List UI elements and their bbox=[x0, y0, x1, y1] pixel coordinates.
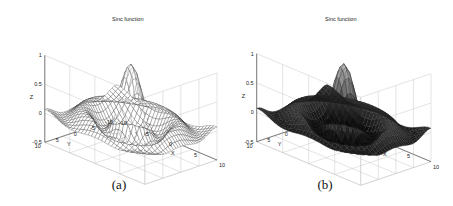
x-tick-label: -10 bbox=[329, 120, 337, 126]
y-tick-label: 10 bbox=[35, 143, 41, 149]
x-tick-label: 10 bbox=[433, 164, 439, 170]
z-tick-label: 0 bbox=[39, 110, 42, 116]
x-axis-label: X bbox=[383, 151, 387, 157]
x-tick-label: 10 bbox=[219, 162, 225, 168]
panel-a: Sinc function 10.50-0.51050-5-10-10-5051… bbox=[0, 0, 226, 206]
x-tick-label: 0 bbox=[169, 141, 172, 147]
caption-a: (a) bbox=[99, 177, 139, 193]
z-tick-label: 1 bbox=[251, 51, 254, 57]
z-axis-label: Z bbox=[242, 93, 246, 99]
z-tick-label: 0.5 bbox=[246, 80, 254, 86]
x-axis-label: X bbox=[171, 150, 175, 156]
y-tick-label: 5 bbox=[267, 137, 270, 143]
z-tick-label: 1 bbox=[39, 52, 42, 58]
x-tick-label: 0 bbox=[381, 142, 384, 148]
y-tick-label: -5 bbox=[90, 125, 95, 131]
surface-plot-a: 10.50-0.51050-5-10-10-50510ZYX bbox=[0, 0, 226, 206]
x-tick-label: -10 bbox=[119, 120, 127, 126]
y-tick-label: -5 bbox=[301, 125, 306, 131]
y-tick-label: 10 bbox=[247, 143, 253, 149]
x-tick-label: 5 bbox=[407, 153, 410, 159]
x-tick-label: -5 bbox=[355, 131, 360, 137]
y-tick-label: 5 bbox=[56, 137, 59, 143]
y-axis-label: Y bbox=[67, 141, 71, 147]
surface-plot-b: 10.50-0.51050-5-10-10-50510ZYX bbox=[227, 0, 453, 206]
y-axis-label: Y bbox=[278, 141, 282, 147]
y-tick-label: -10 bbox=[315, 119, 323, 125]
caption-b: (b) bbox=[305, 177, 345, 193]
x-tick-label: -5 bbox=[144, 131, 149, 137]
y-tick-label: 0 bbox=[285, 131, 288, 137]
x-tick-label: 5 bbox=[194, 152, 197, 158]
z-tick-label: 0.5 bbox=[34, 81, 42, 87]
z-axis-label: Z bbox=[30, 94, 34, 100]
panel-b: Sinc function 10.50-0.51050-5-10-10-5051… bbox=[227, 0, 453, 206]
y-tick-label: 0 bbox=[74, 131, 77, 137]
z-tick-label: 0 bbox=[251, 109, 254, 115]
y-tick-label: -10 bbox=[105, 119, 113, 125]
